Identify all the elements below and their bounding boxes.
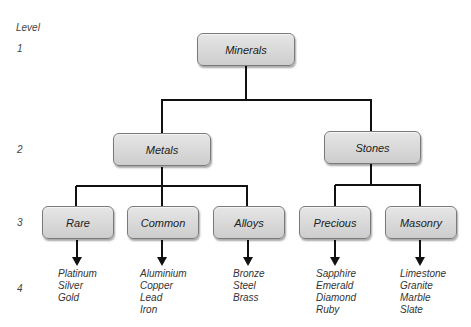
leaf-item: Copper xyxy=(140,280,187,292)
leaf-item: Silver xyxy=(58,280,97,292)
node-masonry: Masonry xyxy=(385,206,457,239)
alloys-arrowhead-icon xyxy=(243,257,253,266)
node-common: Common xyxy=(127,206,199,239)
leaf-list-rare: Platinum Silver Gold xyxy=(58,268,97,304)
leaf-item: Diamond xyxy=(316,292,356,304)
leaf-item: Sapphire xyxy=(316,268,356,280)
leaf-item: Emerald xyxy=(316,280,356,292)
leaf-item: Steel xyxy=(233,280,265,292)
leaf-item: Iron xyxy=(140,304,187,316)
leaf-item: Slate xyxy=(400,304,446,316)
precious-arrowhead-icon xyxy=(330,257,340,266)
node-metals: Metals xyxy=(113,133,211,166)
leaf-item: Bronze xyxy=(233,268,265,280)
node-precious: Precious xyxy=(299,206,371,239)
leaf-list-masonry: Limestone Granite Marble Slate xyxy=(400,268,446,316)
common-arrowhead-icon xyxy=(157,257,167,266)
leaf-list-alloys: Bronze Steel Brass xyxy=(233,268,265,304)
leaf-item: Lead xyxy=(140,292,187,304)
node-rare: Rare xyxy=(42,206,114,239)
leaf-item: Gold xyxy=(58,292,97,304)
leaf-item: Marble xyxy=(400,292,446,304)
leaf-item: Aluminium xyxy=(140,268,187,280)
leaf-item: Brass xyxy=(233,292,265,304)
leaf-item: Platinum xyxy=(58,268,97,280)
leaf-item: Limestone xyxy=(400,268,446,280)
leaf-item: Granite xyxy=(400,280,446,292)
node-minerals: Minerals xyxy=(197,33,295,66)
node-alloys: Alloys xyxy=(213,206,285,239)
node-stones: Stones xyxy=(324,131,421,164)
leaf-list-common: Aluminium Copper Lead Iron xyxy=(140,268,187,316)
rare-arrowhead-icon xyxy=(72,257,82,266)
leaf-item: Ruby xyxy=(316,304,356,316)
leaf-list-precious: Sapphire Emerald Diamond Ruby xyxy=(316,268,356,316)
masonry-arrowhead-icon xyxy=(415,257,425,266)
